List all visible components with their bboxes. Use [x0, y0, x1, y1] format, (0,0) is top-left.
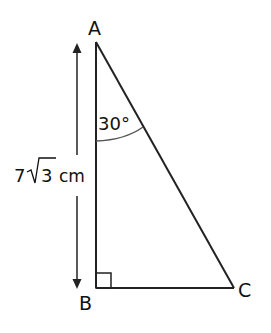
triangle-diagram: A B C 30° 7 3 cm [0, 0, 271, 333]
svg-text:7: 7 [14, 165, 25, 186]
side-length-label: 7 3 cm [14, 158, 85, 186]
svg-text:cm: cm [59, 166, 85, 186]
right-angle-marker [96, 273, 111, 288]
side-ac [96, 42, 234, 288]
angle-label-a: 30° [98, 113, 130, 134]
vertex-label-b: B [79, 292, 92, 314]
arrow-head-down-icon [73, 279, 82, 289]
arrow-head-up-icon [73, 43, 82, 53]
svg-text:3: 3 [41, 165, 52, 186]
vertex-label-a: A [88, 17, 101, 39]
vertex-label-c: C [238, 279, 251, 301]
